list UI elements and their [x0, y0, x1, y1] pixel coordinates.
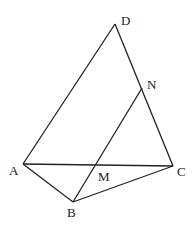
point-label-d: D [121, 13, 130, 28]
point-label-n: N [147, 77, 157, 92]
point-label-a: A [9, 163, 19, 178]
segment-ad [23, 24, 115, 164]
point-label-c: C [177, 164, 186, 179]
geometry-diagram: DNACMB [0, 0, 196, 229]
segment-dc [115, 24, 173, 166]
segment-ab [23, 164, 73, 202]
segment-bc [73, 166, 173, 202]
segment-bn [73, 88, 142, 202]
point-label-m: M [98, 169, 110, 184]
segment-ac [23, 164, 173, 166]
point-label-b: B [67, 205, 76, 220]
point-labels: DNACMB [9, 13, 186, 220]
